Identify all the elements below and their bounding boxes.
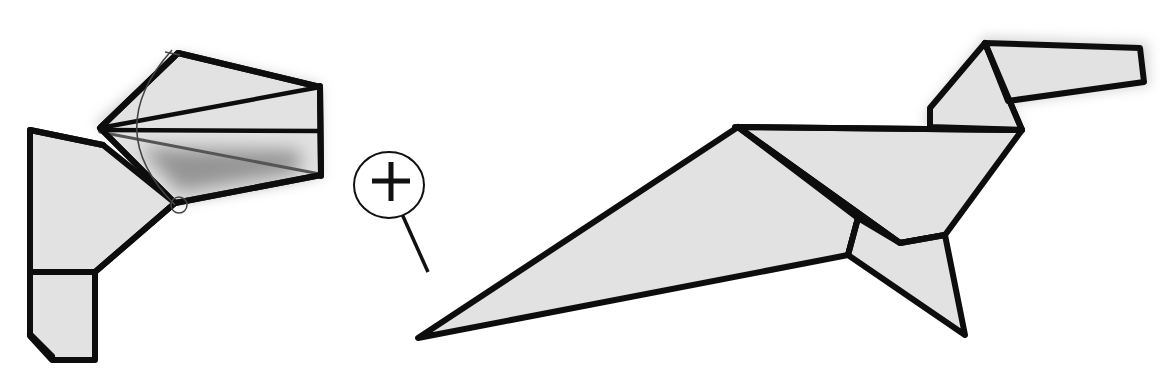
result-view <box>418 36 1150 338</box>
magnifier-handle <box>402 214 428 272</box>
head-crease-middle <box>100 130 320 131</box>
back-edge <box>735 127 1022 130</box>
magnify-plus-icon <box>354 152 428 272</box>
head-right-edge <box>320 86 321 176</box>
origami-diagram <box>0 0 1160 381</box>
detail-view <box>30 50 322 360</box>
